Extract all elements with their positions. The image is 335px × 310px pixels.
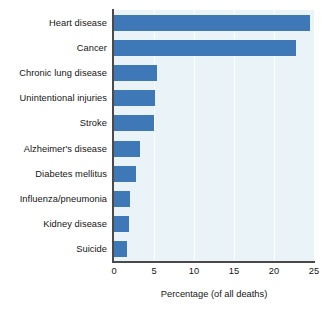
- bars-group: [114, 10, 314, 262]
- category-label: Unintentional injuries: [0, 93, 107, 103]
- category-label: Suicide: [0, 244, 107, 254]
- category-label: Chronic lung disease: [0, 68, 107, 78]
- bar: [114, 141, 140, 157]
- bar: [114, 15, 310, 31]
- category-label: Heart disease: [0, 18, 107, 28]
- x-tick-label: 15: [219, 265, 249, 277]
- x-tick-label: 5: [139, 265, 169, 277]
- category-label: Alzheimer's disease: [0, 144, 107, 154]
- x-tick-label: 10: [179, 265, 209, 277]
- category-axis: Heart diseaseCancerChronic lung diseaseU…: [0, 10, 110, 262]
- plot-area: [114, 10, 314, 262]
- bar: [114, 191, 130, 207]
- bar: [114, 166, 136, 182]
- category-label: Cancer: [0, 43, 107, 53]
- bar: [114, 90, 155, 106]
- x-axis-line: [112, 261, 315, 263]
- bar: [114, 115, 154, 131]
- x-axis-title: Percentage (of all deaths): [114, 288, 314, 300]
- category-label: Stroke: [0, 118, 107, 128]
- x-tick-label: 0: [99, 265, 129, 277]
- bar: [114, 40, 296, 56]
- y-axis-line: [112, 9, 114, 263]
- bar: [114, 216, 129, 232]
- category-label: Kidney disease: [0, 219, 107, 229]
- x-tick-label: 25: [299, 265, 329, 277]
- bar: [114, 65, 157, 81]
- x-axis-tick-labels: 0510152025: [0, 265, 335, 281]
- bar: [114, 241, 127, 257]
- bar-chart-figure: Heart diseaseCancerChronic lung diseaseU…: [0, 0, 335, 310]
- category-label: Diabetes mellitus: [0, 169, 107, 179]
- category-label: Influenza/pneumonia: [0, 194, 107, 204]
- x-tick-label: 20: [259, 265, 289, 277]
